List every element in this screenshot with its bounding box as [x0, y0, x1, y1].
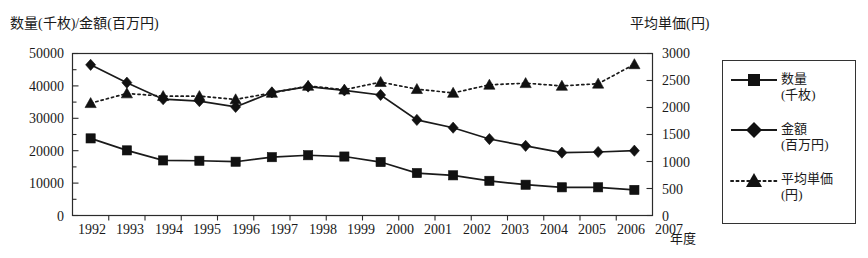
data-point	[448, 122, 458, 133]
data-point	[629, 145, 639, 156]
data-point	[122, 77, 132, 88]
data-point	[520, 78, 531, 88]
series-金額	[86, 59, 640, 158]
data-point	[557, 183, 566, 192]
data-point	[195, 156, 204, 165]
series-平均単価	[85, 59, 640, 108]
data-point	[485, 176, 494, 185]
data-point	[484, 79, 495, 89]
legend-label-unit-price-line1: 平均単価	[781, 171, 833, 187]
triangle-marker-icon	[729, 171, 779, 189]
data-point	[484, 133, 494, 144]
data-point	[267, 153, 276, 162]
data-point	[521, 140, 531, 151]
data-point	[593, 146, 603, 157]
data-point	[231, 157, 240, 166]
data-point	[376, 157, 385, 166]
legend-label-amount-line1: 金額	[781, 121, 829, 137]
data-point	[594, 183, 603, 192]
data-point	[629, 59, 640, 69]
legend-item-unit-price[interactable]: 平均単価 (円)	[729, 171, 833, 203]
data-point	[86, 59, 96, 70]
data-point	[412, 114, 422, 125]
legend-box: 数量 (千枚) 金額 (百万円)	[722, 60, 856, 224]
left-axis-ticks	[73, 54, 79, 216]
chart-figure: 数量(千枚)/金額(百万円) 平均単価(円) 年度 50000 40000 30…	[0, 0, 868, 258]
data-point	[557, 147, 567, 158]
diamond-marker-icon	[729, 121, 779, 139]
legend-label-quantity-line1: 数量	[781, 71, 816, 87]
data-point	[86, 134, 95, 143]
series-layer	[85, 59, 640, 195]
data-point	[340, 152, 349, 161]
data-point	[194, 91, 205, 101]
data-point	[412, 168, 421, 177]
data-point	[121, 88, 132, 98]
right-axis-ticks	[647, 54, 653, 216]
data-point	[122, 146, 131, 155]
legend-label-unit-price-line2: (円)	[781, 187, 833, 203]
data-point	[304, 151, 313, 160]
legend-item-quantity[interactable]: 数量 (千枚)	[729, 71, 816, 103]
series-数量	[86, 134, 639, 195]
data-point	[376, 89, 386, 100]
data-point	[630, 185, 639, 194]
x-axis-ticks	[109, 216, 617, 221]
legend-item-amount[interactable]: 金額 (百万円)	[729, 121, 829, 153]
data-point	[375, 77, 386, 87]
data-point	[85, 98, 96, 108]
data-point	[449, 171, 458, 180]
legend-label-quantity-line2: (千枚)	[781, 87, 816, 103]
data-point	[159, 156, 168, 165]
legend-label-amount-line2: (百万円)	[781, 137, 829, 153]
square-marker-icon	[729, 71, 779, 89]
data-point	[521, 180, 530, 189]
